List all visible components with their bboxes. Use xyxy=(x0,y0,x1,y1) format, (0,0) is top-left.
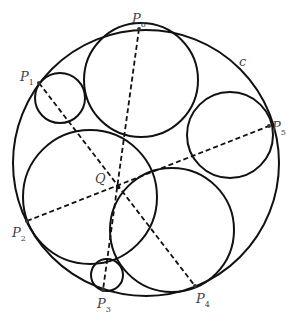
circle-c2 xyxy=(84,23,198,137)
label-P4: P4 xyxy=(196,292,210,309)
circle-c5 xyxy=(187,92,273,178)
point-P5 xyxy=(267,124,271,128)
point-Q xyxy=(116,185,120,189)
label-P1: P1 xyxy=(20,70,34,87)
label-P5: P5 xyxy=(272,120,286,137)
center-label-q: Q xyxy=(95,172,106,185)
outer-circle-label: c xyxy=(239,55,246,68)
dashed-line-P2-P5 xyxy=(27,126,269,221)
point-P2 xyxy=(25,219,29,223)
point-P1 xyxy=(37,81,41,85)
dashed-line-P6-P3 xyxy=(103,29,139,290)
circle-c1 xyxy=(35,73,85,123)
dashed-line-P1-P4 xyxy=(39,83,195,286)
label-P2: P2 xyxy=(12,226,26,243)
point-P3 xyxy=(101,288,105,292)
circle-outer xyxy=(13,30,279,296)
point-P4 xyxy=(193,284,197,288)
circle-c4 xyxy=(110,168,234,292)
label-P6: P6 xyxy=(132,12,146,29)
diagram-canvas xyxy=(0,0,298,326)
label-P3: P3 xyxy=(97,297,111,314)
geometry-diagram: c Q P1P2P3P4P5P6 xyxy=(0,0,298,326)
